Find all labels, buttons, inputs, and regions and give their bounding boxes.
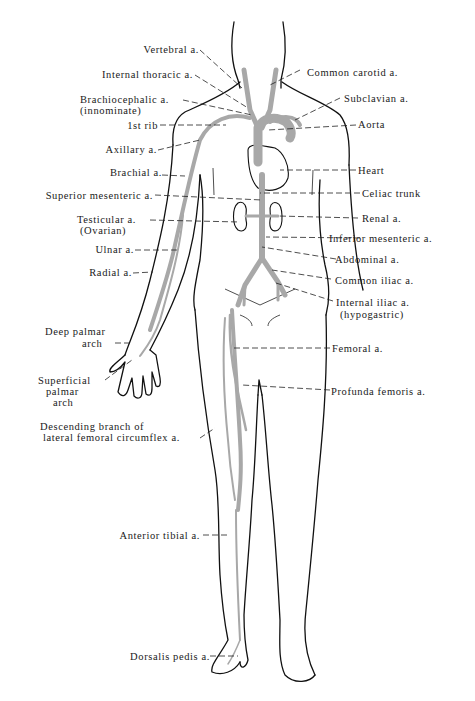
label-aorta: Aorta — [358, 119, 385, 130]
label-renal: Renal a. — [362, 213, 401, 224]
label-subclavian: Subclavian a. — [344, 93, 408, 104]
label-deep-palmar: Deep palmar — [45, 326, 106, 337]
label-internal-thoracic: Internal thoracic a. — [102, 69, 193, 80]
label-brachiocephalic-sub: (innominate) — [80, 105, 141, 116]
label-femoral: Femoral a. — [332, 343, 383, 354]
label-testicular: Testicular a. — [77, 214, 136, 225]
label-superior-mesenteric: Superior mesenteric a. — [46, 190, 153, 201]
label-profunda-femoris: Profunda femoris a. — [331, 386, 426, 397]
label-superficial-palmar: Superficial — [38, 375, 91, 386]
anatomy-diagram — [0, 0, 475, 701]
label-anterior-tibial: Anterior tibial a. — [120, 530, 201, 541]
label-deep-palmar-sub: arch — [82, 338, 102, 349]
label-descending-branch-sub: lateral femoral circumflex a. — [43, 432, 180, 443]
label-vertebral: Vertebral a. — [143, 44, 199, 55]
left-kidney — [234, 202, 247, 230]
label-inferior-mesenteric: Inferior mesenteric a. — [329, 233, 432, 244]
label-axillary: Axillary a. — [105, 144, 157, 155]
label-descending-branch: Descending branch of — [40, 421, 144, 432]
label-common-iliac: Common iliac a. — [335, 275, 414, 286]
label-common-carotid: Common carotid a. — [307, 67, 398, 78]
label-radial: Radial a. — [89, 267, 132, 278]
label-internal-iliac: Internal iliac a. — [336, 297, 409, 308]
label-testicular-sub: (Ovarian) — [80, 225, 126, 236]
label-celiac-trunk: Celiac trunk — [362, 188, 421, 199]
label-superficial-palmar-sub2: arch — [53, 397, 73, 408]
label-ulnar: Ulnar a. — [95, 244, 134, 255]
label-brachiocephalic: Brachiocephalic a. — [80, 94, 169, 105]
label-brachial: Brachial a. — [110, 167, 162, 178]
label-abdominal: Abdominal a. — [335, 254, 399, 265]
label-superficial-palmar-sub: palmar — [46, 386, 79, 397]
label-heart: Heart — [358, 165, 384, 176]
label-dorsalis-pedis: Dorsalis pedis a. — [130, 651, 210, 662]
label-internal-iliac-sub: (hypogastric) — [340, 309, 404, 320]
label-first-rib: 1st rib — [127, 120, 158, 131]
